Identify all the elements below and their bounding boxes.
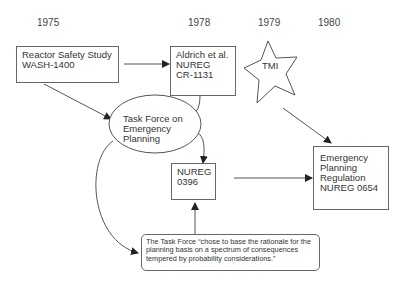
node-task-force: Task Force on Emergency Planning [123, 114, 183, 144]
node-line: WASH-1400 [22, 60, 113, 70]
node-line: Planning [123, 134, 183, 144]
node-reactor-safety-study: Reactor Safety Study WASH-1400 [16, 46, 119, 83]
node-line: 0396 [177, 177, 210, 187]
node-tmi: TMI [262, 60, 278, 71]
node-line: CR-1131 [176, 70, 230, 80]
node-emergency-planning-regulation: Emergency Planning Regulation NUREG 0654 [313, 146, 389, 210]
node-line: NUREG 0654 [320, 183, 383, 193]
node-nureg-0396: NUREG 0396 [171, 163, 216, 200]
node-aldrich-nureg-cr-1131: Aldrich et al. NUREG CR-1131 [170, 46, 236, 96]
quote-line: tempered by probability considerations.” [146, 255, 315, 263]
node-task-force-quote: The Task Force “chose to base the ration… [141, 234, 320, 271]
tmi-star-shape [244, 41, 297, 103]
